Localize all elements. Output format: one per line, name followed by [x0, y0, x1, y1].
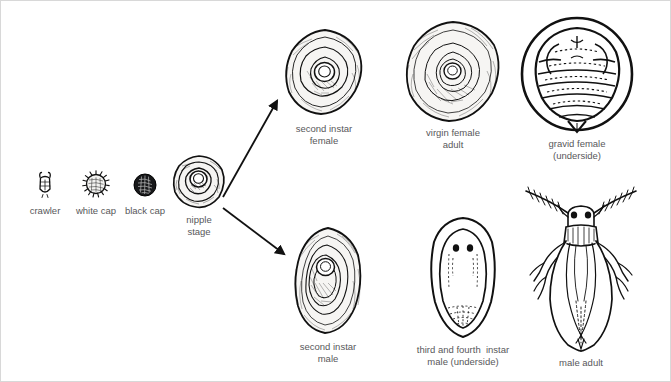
third-fourth-instar-male-underside-icon: [426, 216, 500, 340]
gravid-female-underside-icon: [519, 14, 635, 134]
black-cap-scale-icon: [131, 171, 159, 199]
second-instar-female-scale-icon: [281, 27, 367, 119]
life-cycle-diagram: crawler: [0, 0, 671, 382]
arrow-nipple-to-female: [223, 101, 277, 197]
nipple-stage-scale-icon: [170, 154, 228, 210]
second-instar-male-label: second instar male: [273, 341, 383, 364]
virgin-female-adult-label: virgin female adult: [398, 127, 508, 150]
white-cap-scale-icon: [79, 169, 113, 201]
second-instar-male-scale-icon: [290, 225, 366, 337]
gravid-female-label: gravid female (underside): [517, 138, 637, 161]
nipple-stage-label: nipple stage: [159, 214, 239, 237]
virgin-female-adult-scale-icon: [401, 19, 505, 125]
male-adult-label: male adult: [526, 357, 636, 369]
second-instar-female-label: second instar female: [269, 123, 379, 146]
crawler-nymph-icon: [33, 171, 57, 199]
male-adult-winged-insect-icon: [506, 177, 656, 355]
